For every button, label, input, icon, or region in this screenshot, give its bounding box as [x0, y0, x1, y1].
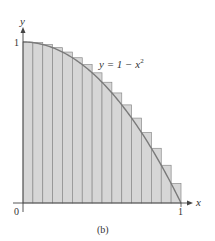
riemann-sum-chart: y x 0 1 1 y = 1 − x2 (b) [0, 0, 215, 241]
x-axis-label: x [195, 196, 201, 208]
curve-equation-exponent: 2 [140, 57, 144, 65]
rectangle-4 [53, 48, 63, 203]
rectangle-6 [72, 58, 82, 203]
rectangle-15 [161, 165, 171, 203]
rectangle-2 [33, 43, 43, 203]
rectangle-3 [43, 45, 53, 203]
rectangle-13 [142, 133, 152, 203]
x-axis-arrow-icon [187, 201, 193, 206]
origin-label: 0 [14, 206, 19, 217]
y-axis-label: y [19, 15, 25, 27]
rectangle-8 [92, 73, 102, 203]
curve-equation-main: y = 1 − x [98, 58, 140, 70]
rectangle-9 [102, 82, 112, 203]
y-tick-label-1: 1 [14, 37, 19, 48]
x-tick-label-1: 1 [178, 206, 183, 217]
rectangle-11 [122, 105, 132, 203]
rectangle-1 [23, 42, 33, 203]
curve-equation-label: y = 1 − x2 [98, 57, 144, 70]
y-axis-arrow-icon [21, 27, 26, 33]
figure-caption: (b) [97, 224, 109, 236]
rectangle-10 [112, 93, 122, 203]
rectangle-5 [63, 52, 73, 203]
rectangle-7 [82, 65, 92, 203]
